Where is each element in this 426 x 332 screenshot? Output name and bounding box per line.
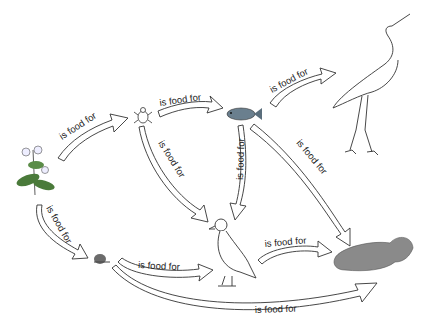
fish-organism xyxy=(227,108,262,120)
arrow-insect-to-fish: is food for xyxy=(158,91,223,117)
duck-organism xyxy=(209,219,256,286)
plant-organism xyxy=(15,146,56,195)
arrow-plant-to-insect: is food for xyxy=(57,110,128,161)
snail-organism xyxy=(94,254,110,264)
heron-organism xyxy=(333,14,410,155)
arrow-snail-to-duck: is food for xyxy=(118,258,213,281)
arrow-fish-to-heron: is food for xyxy=(268,65,336,107)
arrow-fish-to-otter: is food for xyxy=(250,124,350,246)
link-label: is food for xyxy=(255,303,297,315)
arrow-insect-to-duck: is food for xyxy=(139,126,208,222)
arrow-fish-to-duck: is food for xyxy=(230,125,246,220)
arrow-duck-to-otter: is food for xyxy=(258,234,332,264)
insect-organism xyxy=(134,108,152,124)
link-label: is food for xyxy=(234,138,246,180)
link-label: is food for xyxy=(138,259,180,272)
link-label: is food for xyxy=(57,110,98,142)
food-web-diagram: is food for is food for is food for is f… xyxy=(0,0,426,332)
arrow-plant-to-snail: is food for xyxy=(37,204,88,260)
